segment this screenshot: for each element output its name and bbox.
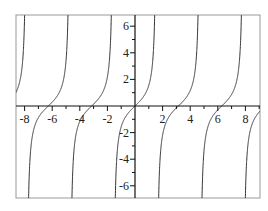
y-tick-label: 6: [123, 19, 129, 33]
x-tick-label: -4: [75, 112, 85, 126]
x-tick-label: -6: [47, 112, 57, 126]
tan-plot: -8-6-4-22468-6-4-2246: [0, 0, 268, 211]
x-tick-label: 2: [160, 112, 166, 126]
y-tick-label: -2: [119, 126, 129, 140]
x-tick-label: -2: [102, 112, 112, 126]
x-tick-label: 6: [215, 112, 221, 126]
y-tick-label: 2: [123, 72, 129, 86]
x-tick-label: 8: [242, 112, 248, 126]
y-tick-label: -4: [119, 152, 129, 166]
y-tick-label: -6: [119, 179, 129, 193]
y-tick-label: 4: [123, 46, 129, 60]
x-tick-label: 4: [187, 112, 193, 126]
x-tick-label: -8: [20, 112, 30, 126]
